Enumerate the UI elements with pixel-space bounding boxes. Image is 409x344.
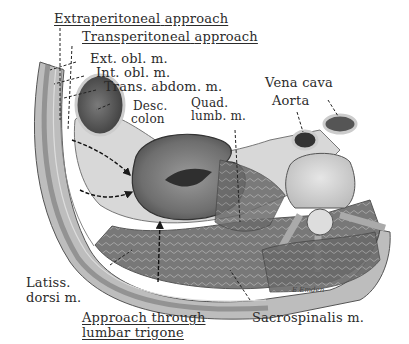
- label-ext-obl-m: Ext. obl. m.: [90, 52, 168, 65]
- anatomy-figure: E.Emden Extraperitoneal approach Transpe…: [0, 0, 409, 344]
- label-trans-abdom-m: Trans. abdom. m.: [104, 80, 222, 93]
- label-transperitoneal-approach: Transperitoneal approach: [82, 30, 258, 43]
- label-lumb-m: lumb. m.: [191, 110, 246, 122]
- label-dorsi-m: dorsi m.: [26, 291, 81, 304]
- label-int-obl-m: Int. obl. m.: [96, 66, 170, 79]
- transperitoneal-text: Transperitoneal: [82, 29, 190, 44]
- label-lumbar-trigone: lumbar trigone: [82, 326, 184, 339]
- aorta: [293, 131, 317, 149]
- label-sacrospinalis-m: Sacrospinalis m.: [252, 311, 364, 324]
- label-approach-through: Approach through: [82, 311, 206, 324]
- artist-signature: E.Emden: [291, 286, 325, 294]
- label-extraperitoneal-approach: Extraperitoneal approach: [54, 12, 228, 25]
- approach-text: approach: [165, 11, 228, 26]
- approach-text: approach: [194, 29, 257, 44]
- label-latiss: Latiss.: [26, 276, 71, 289]
- label-aorta: Aorta: [272, 94, 309, 107]
- label-colon: colon: [131, 113, 165, 125]
- vena-cava: [324, 115, 356, 133]
- label-quad: Quad.: [191, 97, 228, 109]
- extraperitoneal-text: Extraperitoneal: [54, 11, 160, 26]
- label-desc: Desc.: [133, 100, 167, 112]
- label-vena-cava: Vena cava: [265, 76, 333, 89]
